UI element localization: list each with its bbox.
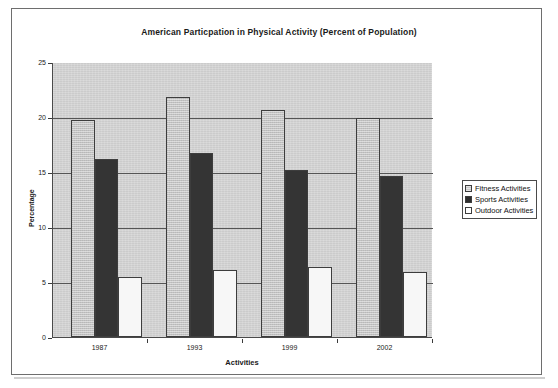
y-tick-label: 10 — [26, 224, 46, 231]
x-tick-label: 1999 — [270, 344, 310, 351]
y-tick-label: 0 — [26, 334, 46, 341]
y-tick-label: 20 — [26, 114, 46, 121]
x-tick-label: 1987 — [80, 344, 120, 351]
y-tick-mark — [48, 228, 52, 229]
chart-legend: Fitness ActivitiesSports ActivitiesOutdo… — [462, 180, 537, 219]
bar-1999-sports-activities — [285, 170, 309, 337]
y-tick-mark — [48, 173, 52, 174]
legend-label: Sports Activities — [475, 195, 528, 204]
bar-2002-outdoor-activities — [403, 272, 427, 337]
legend-label: Outdoor Activities — [475, 206, 533, 215]
bar-1993-fitness-activities — [166, 97, 190, 337]
bar-1987-outdoor-activities — [118, 277, 142, 338]
chart-title: American Particpation in Physical Activi… — [0, 27, 558, 37]
legend-label: Fitness Activities — [475, 184, 530, 193]
bar-1999-fitness-activities — [261, 110, 285, 337]
legend-item-sports-activities[interactable]: Sports Activities — [465, 194, 533, 205]
legend-swatch-icon — [465, 196, 472, 203]
legend-swatch-icon — [465, 185, 472, 192]
y-tick-label: 5 — [26, 279, 46, 286]
x-tick-mark — [337, 339, 338, 343]
bar-1993-outdoor-activities — [213, 270, 237, 337]
bar-2002-fitness-activities — [356, 118, 380, 337]
bar-1987-fitness-activities — [71, 120, 95, 337]
x-tick-mark — [147, 339, 148, 343]
y-tick-label: 25 — [26, 59, 46, 66]
y-tick-label: 15 — [26, 169, 46, 176]
frame-shadow — [14, 377, 545, 379]
legend-item-fitness-activities[interactable]: Fitness Activities — [465, 183, 533, 194]
y-tick-mark — [48, 283, 52, 284]
chart-page: American Particpation in Physical Activi… — [0, 0, 558, 388]
bar-1999-outdoor-activities — [308, 267, 332, 337]
x-tick-mark — [242, 339, 243, 343]
y-axis-title: Percentage — [28, 189, 35, 227]
x-tick-label: 1993 — [175, 344, 215, 351]
x-axis-title: Activities — [52, 358, 432, 367]
bar-2002-sports-activities — [380, 176, 404, 337]
legend-item-outdoor-activities[interactable]: Outdoor Activities — [465, 205, 533, 216]
plot-area — [52, 63, 432, 338]
y-tick-mark — [48, 118, 52, 119]
x-tick-label: 2002 — [365, 344, 405, 351]
bar-1993-sports-activities — [190, 153, 214, 337]
bar-1987-sports-activities — [95, 159, 119, 337]
y-tick-mark — [48, 338, 52, 339]
x-tick-mark — [432, 339, 433, 343]
y-tick-mark — [48, 63, 52, 64]
legend-swatch-icon — [465, 207, 472, 214]
